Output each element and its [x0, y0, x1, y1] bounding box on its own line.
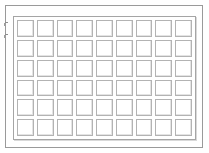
grid-cell[interactable] — [57, 60, 74, 77]
grid-cell[interactable] — [37, 40, 54, 57]
grid-cell[interactable] — [136, 20, 153, 37]
grid-cell[interactable] — [37, 20, 54, 37]
grid-cell[interactable] — [76, 40, 93, 57]
grid-cell[interactable] — [116, 99, 133, 116]
grid-cell[interactable] — [136, 80, 153, 97]
grid-cell[interactable] — [76, 20, 93, 37]
grid-cell[interactable] — [175, 80, 192, 97]
grid-cell[interactable] — [116, 119, 133, 136]
grid-cell[interactable] — [155, 99, 172, 116]
grid-cell[interactable] — [96, 99, 113, 116]
cell-grid — [16, 19, 193, 137]
grid-cell[interactable] — [96, 20, 113, 37]
grid-cell[interactable] — [37, 80, 54, 97]
grid-cell[interactable] — [175, 20, 192, 37]
grid-cell[interactable] — [136, 99, 153, 116]
grid-cell[interactable] — [37, 60, 54, 77]
grid-cell[interactable] — [57, 99, 74, 116]
grid-cell[interactable] — [116, 80, 133, 97]
grid-cell[interactable] — [155, 80, 172, 97]
grid-cell[interactable] — [175, 99, 192, 116]
grid-cell[interactable] — [57, 20, 74, 37]
grid-cell[interactable] — [175, 60, 192, 77]
grid-cell[interactable] — [17, 80, 34, 97]
grid-cell[interactable] — [155, 119, 172, 136]
grid-cell[interactable] — [17, 20, 34, 37]
grid-cell[interactable] — [136, 119, 153, 136]
grid-cell[interactable] — [96, 40, 113, 57]
grid-cell[interactable] — [96, 80, 113, 97]
grid-cell[interactable] — [175, 119, 192, 136]
diagram-canvas — [0, 0, 209, 153]
tick-mark-lower-dot — [4, 35, 6, 38]
grid-cell[interactable] — [37, 99, 54, 116]
grid-cell[interactable] — [155, 40, 172, 57]
grid-cell[interactable] — [96, 119, 113, 136]
grid-cell[interactable] — [136, 40, 153, 57]
grid-cell[interactable] — [76, 119, 93, 136]
grid-cell[interactable] — [116, 60, 133, 77]
grid-cell[interactable] — [17, 99, 34, 116]
grid-cell[interactable] — [136, 60, 153, 77]
grid-cell[interactable] — [76, 60, 93, 77]
grid-cell[interactable] — [17, 119, 34, 136]
grid-cell[interactable] — [155, 20, 172, 37]
grid-cell[interactable] — [17, 60, 34, 77]
grid-cell[interactable] — [155, 60, 172, 77]
grid-cell[interactable] — [96, 60, 113, 77]
tick-mark-upper-dot — [4, 23, 6, 26]
grid-cell[interactable] — [76, 99, 93, 116]
grid-cell[interactable] — [76, 80, 93, 97]
grid-cell[interactable] — [116, 20, 133, 37]
grid-cell[interactable] — [37, 119, 54, 136]
grid-cell[interactable] — [57, 80, 74, 97]
grid-cell[interactable] — [57, 40, 74, 57]
grid-cell[interactable] — [57, 119, 74, 136]
grid-cell[interactable] — [116, 40, 133, 57]
grid-cell[interactable] — [17, 40, 34, 57]
grid-cell[interactable] — [175, 40, 192, 57]
